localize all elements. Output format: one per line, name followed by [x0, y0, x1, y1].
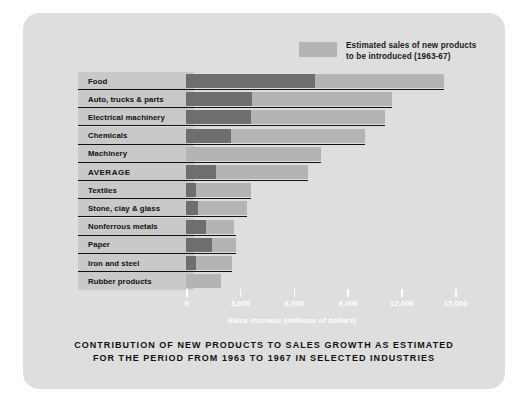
x-axis-tick-label: 0 — [185, 299, 189, 308]
x-axis-tick — [240, 289, 242, 297]
x-axis-tick — [401, 289, 403, 297]
x-axis-tick — [347, 289, 349, 297]
x-axis-title: Sales increase (millions of dollars) — [23, 316, 505, 325]
x-axis-tick — [455, 289, 457, 297]
chart-card: Estimated sales of new products to be in… — [23, 13, 505, 389]
x-axis-tick — [294, 289, 296, 297]
x-axis-tick-label: 9,000 — [338, 299, 358, 308]
x-axis-tick-label: 3,000 — [231, 299, 251, 308]
chart-caption: CONTRIBUTION OF NEW PRODUCTS TO SALES GR… — [23, 339, 505, 365]
x-axis-tick-label: 15,000 — [444, 299, 468, 308]
x-axis: Sales increase (millions of dollars) 03,… — [23, 13, 505, 389]
x-axis-tick-label: 6,000 — [285, 299, 305, 308]
x-axis-title-text: Sales increase (millions of dollars) — [172, 316, 357, 325]
x-axis-tick — [186, 289, 188, 297]
x-axis-tick-label: 12,000 — [390, 299, 414, 308]
